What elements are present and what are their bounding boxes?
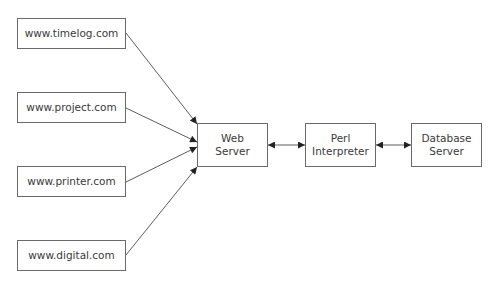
node-printer: www.printer.com [17, 166, 126, 197]
arrow-digital-to-web [126, 167, 197, 255]
node-label-line1: Web [221, 132, 244, 145]
node-label-line2: Server [215, 145, 249, 158]
node-timelog: www.timelog.com [17, 18, 126, 49]
node-label: www.printer.com [27, 175, 115, 188]
node-label-line2: Server [429, 145, 463, 158]
node-database-server: Database Server [411, 123, 482, 167]
node-label-line1: Database [421, 132, 471, 145]
node-perl-interpreter: Perl Interpreter [305, 123, 376, 167]
arrow-project-to-web [126, 108, 197, 142]
node-project: www.project.com [17, 92, 126, 123]
node-digital: www.digital.com [17, 240, 126, 271]
node-label: www.project.com [26, 101, 116, 114]
node-label-line1: Perl [331, 132, 351, 145]
arrow-timelog-to-web [126, 33, 197, 124]
node-label-line2: Interpreter [312, 145, 369, 158]
node-label: www.timelog.com [25, 27, 119, 40]
node-web-server: Web Server [197, 123, 268, 167]
arrow-printer-to-web [126, 147, 197, 182]
node-label: www.digital.com [28, 249, 115, 262]
